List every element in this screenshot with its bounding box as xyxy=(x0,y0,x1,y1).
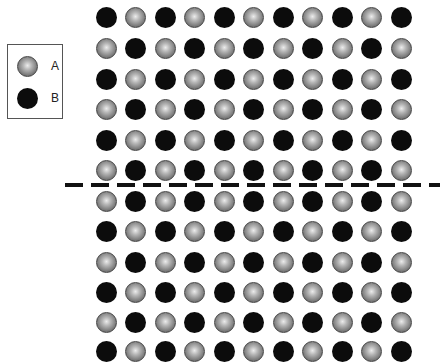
atom-a-icon xyxy=(391,160,412,181)
atom-a-icon xyxy=(243,130,264,151)
atom-a-icon xyxy=(214,312,235,333)
atom-b-icon xyxy=(361,191,382,212)
atom-a-icon xyxy=(96,160,117,181)
atom-a-icon xyxy=(302,69,323,90)
atom-a-icon xyxy=(214,160,235,181)
atom-b-icon xyxy=(273,130,294,151)
atom-a-icon xyxy=(125,7,146,28)
atom-a-icon xyxy=(125,130,146,151)
atom-b-icon xyxy=(332,282,353,303)
atom-a-icon xyxy=(332,252,353,273)
atom-a-icon xyxy=(214,252,235,273)
atom-b-icon xyxy=(184,99,205,120)
atom-a-icon xyxy=(125,221,146,242)
atom-a-icon xyxy=(332,99,353,120)
atom-b-icon xyxy=(332,7,353,28)
atom-b-icon xyxy=(243,312,264,333)
atom-b-icon xyxy=(361,312,382,333)
atom-b-icon xyxy=(302,160,323,181)
atom-b-icon xyxy=(125,252,146,273)
atom-b-icon xyxy=(273,7,294,28)
atom-b-icon xyxy=(155,282,176,303)
atom-a-icon xyxy=(391,38,412,59)
atom-b-icon xyxy=(273,282,294,303)
atom-a-icon xyxy=(332,191,353,212)
atom-b-icon xyxy=(155,130,176,151)
atom-b-icon xyxy=(391,69,412,90)
atom-b-icon xyxy=(391,282,412,303)
atom-a-icon xyxy=(243,69,264,90)
atom-b-icon xyxy=(96,221,117,242)
atom-b-icon xyxy=(214,7,235,28)
atom-a-icon xyxy=(155,191,176,212)
atom-b-icon xyxy=(184,252,205,273)
atom-b-icon xyxy=(243,160,264,181)
atom-a-icon xyxy=(125,69,146,90)
atom-b-icon xyxy=(96,69,117,90)
atom-a-icon xyxy=(243,282,264,303)
atom-b-icon xyxy=(184,191,205,212)
atom-a-icon xyxy=(361,69,382,90)
atom-b-icon xyxy=(332,130,353,151)
atom-a-icon xyxy=(391,312,412,333)
atom-a-icon xyxy=(302,282,323,303)
atom-b-icon xyxy=(243,252,264,273)
atom-b-icon xyxy=(214,69,235,90)
atom-b-icon xyxy=(243,99,264,120)
atom-b-icon xyxy=(96,341,117,362)
atom-b-icon xyxy=(302,252,323,273)
atom-b-icon xyxy=(243,191,264,212)
atom-b-icon xyxy=(302,312,323,333)
atom-a-icon xyxy=(155,312,176,333)
atom-b-icon xyxy=(391,7,412,28)
atom-b-icon xyxy=(361,38,382,59)
atom-b-icon xyxy=(243,38,264,59)
atom-b-icon xyxy=(214,282,235,303)
atom-b-icon xyxy=(184,38,205,59)
atom-b-icon xyxy=(391,221,412,242)
atom-a-icon xyxy=(96,38,117,59)
atom-b-icon xyxy=(273,221,294,242)
atom-b-icon xyxy=(155,69,176,90)
atom-a-icon xyxy=(96,312,117,333)
atom-a-icon xyxy=(391,252,412,273)
atom-lattice xyxy=(0,0,440,363)
atom-a-icon xyxy=(125,341,146,362)
atom-a-icon xyxy=(184,341,205,362)
atom-a-icon xyxy=(302,221,323,242)
atom-a-icon xyxy=(391,99,412,120)
atom-a-icon xyxy=(391,191,412,212)
atom-a-icon xyxy=(302,7,323,28)
atom-a-icon xyxy=(273,38,294,59)
atom-a-icon xyxy=(332,160,353,181)
atom-b-icon xyxy=(96,7,117,28)
atom-b-icon xyxy=(125,99,146,120)
atom-b-icon xyxy=(361,160,382,181)
atom-a-icon xyxy=(302,130,323,151)
atom-b-icon xyxy=(302,191,323,212)
atom-b-icon xyxy=(332,221,353,242)
atom-b-icon xyxy=(332,341,353,362)
atom-a-icon xyxy=(243,221,264,242)
atom-b-icon xyxy=(214,130,235,151)
atom-b-icon xyxy=(273,341,294,362)
atom-b-icon xyxy=(214,341,235,362)
atom-a-icon xyxy=(184,282,205,303)
atom-a-icon xyxy=(96,252,117,273)
atom-b-icon xyxy=(184,160,205,181)
atom-b-icon xyxy=(214,221,235,242)
boundary-dashed-line xyxy=(65,183,440,187)
atom-a-icon xyxy=(214,99,235,120)
atom-b-icon xyxy=(273,69,294,90)
atom-b-icon xyxy=(361,252,382,273)
atom-b-icon xyxy=(125,38,146,59)
atom-b-icon xyxy=(155,7,176,28)
atom-a-icon xyxy=(214,38,235,59)
atom-a-icon xyxy=(96,99,117,120)
atom-b-icon xyxy=(302,99,323,120)
atom-a-icon xyxy=(184,130,205,151)
atom-b-icon xyxy=(125,191,146,212)
atom-a-icon xyxy=(273,160,294,181)
atom-b-icon xyxy=(391,341,412,362)
atom-a-icon xyxy=(332,38,353,59)
